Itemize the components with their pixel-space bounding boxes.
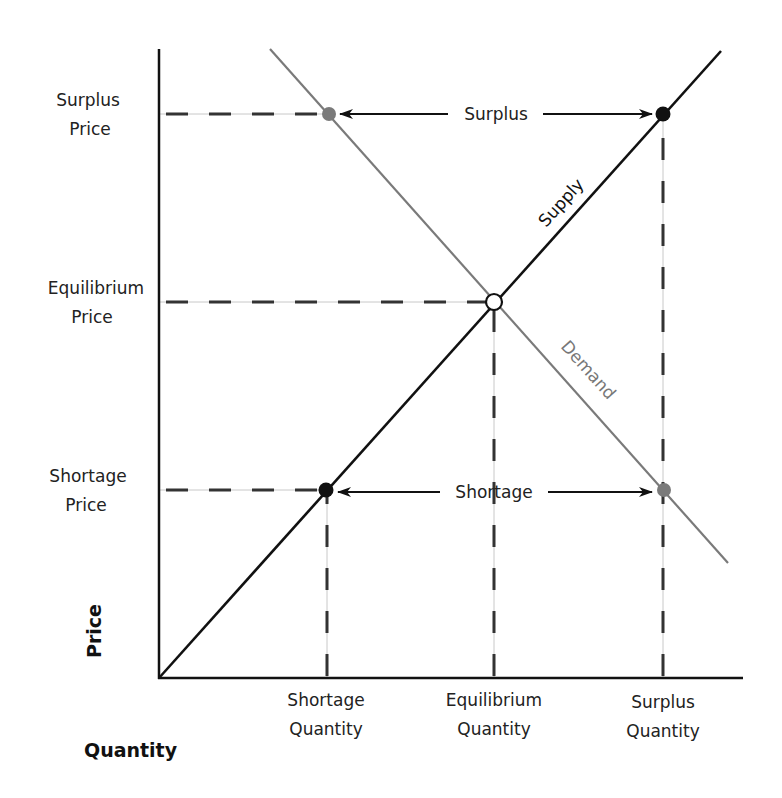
svg-text:Quantity: Quantity [289, 719, 362, 739]
supply-label: Supply [534, 174, 588, 230]
x-tick-shortage-quantity: Shortage Quantity [287, 690, 364, 739]
x-axis-title: Quantity [84, 739, 178, 761]
y-axis-title: Price [83, 604, 105, 658]
demand-label: Demand [557, 336, 620, 403]
supply-demand-diagram: Supply Demand Surplus Shortage Surplus P… [0, 0, 782, 798]
equilibrium-point [486, 294, 502, 310]
surplus-demand-point [322, 107, 336, 121]
surplus-supply-point [656, 107, 671, 122]
y-tick-equilibrium-price: Equilibrium Price [48, 278, 144, 327]
shortage-demand-point [657, 483, 671, 497]
surplus-arrow: Surplus [340, 104, 652, 124]
svg-text:Price: Price [65, 495, 106, 515]
svg-text:Quantity: Quantity [457, 719, 530, 739]
svg-text:Surplus: Surplus [631, 692, 695, 712]
svg-text:Surplus: Surplus [56, 90, 120, 110]
svg-text:Equilibrium: Equilibrium [446, 690, 542, 710]
svg-text:Quantity: Quantity [626, 721, 699, 741]
surplus-annotation: Surplus [464, 104, 528, 124]
shortage-arrow: Shortage [338, 482, 652, 502]
y-tick-surplus-price: Surplus Price [56, 90, 120, 139]
y-tick-shortage-price: Shortage Price [49, 466, 126, 515]
svg-text:Shortage: Shortage [287, 690, 364, 710]
svg-text:Equilibrium: Equilibrium [48, 278, 144, 298]
svg-text:Shortage: Shortage [49, 466, 126, 486]
shortage-annotation: Shortage [455, 482, 532, 502]
svg-text:Price: Price [69, 119, 110, 139]
supply-curve [159, 51, 721, 678]
x-tick-surplus-quantity: Surplus Quantity [626, 692, 699, 741]
shortage-supply-point [319, 483, 334, 498]
svg-text:Price: Price [71, 307, 112, 327]
x-tick-equilibrium-quantity: Equilibrium Quantity [446, 690, 542, 739]
